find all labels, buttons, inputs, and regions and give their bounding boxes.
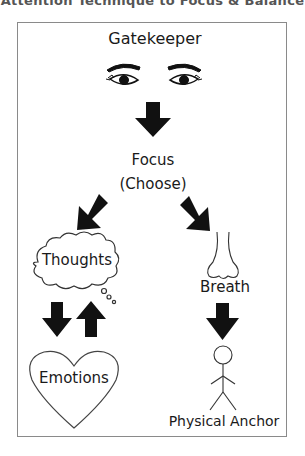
arrow-down-left-icon [77,194,108,230]
eyes-icon [106,64,202,84]
arrow-up-icon [76,301,106,337]
arrow-down-right-icon [180,196,210,231]
arrow-down-icon [42,302,72,337]
diagram-graphics [0,0,305,456]
focus-label: Focus [103,151,203,169]
emotions-label: Emotions [28,369,120,387]
nose-icon [208,232,239,279]
arrow-down-icon [135,102,171,137]
physical-anchor-label: Physical Anchor [160,413,288,429]
thoughts-label: Thoughts [32,251,122,269]
stick-figure-icon [210,346,236,410]
arrow-down-icon [206,303,239,340]
focus-sublabel: (Choose) [98,175,208,193]
heart-icon [30,351,119,428]
breath-label: Breath [190,278,260,296]
